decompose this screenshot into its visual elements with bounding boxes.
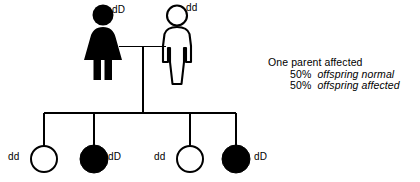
mother-figure [84,5,122,81]
genotype-label-mother: dD [112,5,125,15]
pedigree-diagram: dD dd dd dD dd dD One parent affected 50… [0,0,420,182]
father-body-right [177,27,191,84]
genotype-label-offspring-1: dd [8,152,20,162]
mother-head [93,5,114,26]
father-body-left [163,27,177,84]
annotation-percent-normal: 50% [290,68,311,80]
offspring-symbol-1 [31,146,57,172]
mother-leg-left [94,60,102,80]
father-figure [163,6,191,85]
annotation-text-affected: offspring affected [317,79,399,91]
annotation-block: One parent affected 50% offspring normal… [268,57,418,92]
genotype-label-father: dd [186,3,198,13]
genotype-label-offspring-3: dd [154,152,166,162]
mother-body [84,27,122,60]
father-head [167,6,187,26]
pedigree-lines [44,47,236,147]
offspring-symbol-2 [80,145,108,173]
mother-leg-right [105,60,113,80]
genotype-label-offspring-2: dD [108,152,121,162]
offspring-symbol-4 [222,145,250,173]
annotation-text-normal: offspring normal [317,68,394,80]
annotation-line-offspring-affected: 50% offspring affected [290,80,418,92]
genotype-label-offspring-4: dD [254,152,267,162]
offspring-symbol-3 [177,146,203,172]
annotation-percent-affected: 50% [290,79,311,91]
